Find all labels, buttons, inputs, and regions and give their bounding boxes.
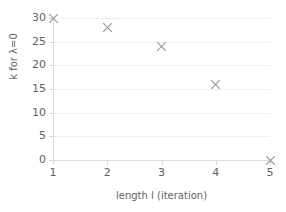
gridline — [53, 89, 270, 90]
gridline — [53, 113, 270, 114]
data-point-marker — [265, 155, 276, 166]
data-point-marker — [48, 13, 59, 24]
y-tick-mark — [49, 89, 53, 90]
x-tick-label: 4 — [201, 167, 231, 179]
gridline — [53, 18, 270, 19]
x-tick-mark — [53, 161, 54, 165]
x-axis-label: length l (iteration) — [53, 190, 270, 201]
x-tick-mark — [162, 161, 163, 165]
x-tick-label: 1 — [38, 167, 68, 179]
y-axis-label: k for λ=0 — [8, 0, 19, 117]
gridline — [53, 65, 270, 66]
x-tick-label: 2 — [92, 167, 122, 179]
x-tick-label: 5 — [255, 167, 285, 179]
y-tick-mark — [49, 65, 53, 66]
y-axis-spine — [53, 18, 54, 160]
x-tick-mark — [216, 161, 217, 165]
data-point-marker — [102, 22, 113, 33]
y-axis-label-holder: k for λ=0 — [0, 0, 26, 212]
x-tick-mark — [107, 161, 108, 165]
y-tick-mark — [49, 113, 53, 114]
data-point-marker — [156, 41, 167, 52]
x-tick-label: 3 — [147, 167, 177, 179]
data-point-marker — [210, 79, 221, 90]
scatter-chart-figure: 051015202530 12345 length l (iteration) … — [0, 0, 286, 212]
y-tick-mark — [49, 42, 53, 43]
y-tick-mark — [49, 136, 53, 137]
gridline — [53, 136, 270, 137]
